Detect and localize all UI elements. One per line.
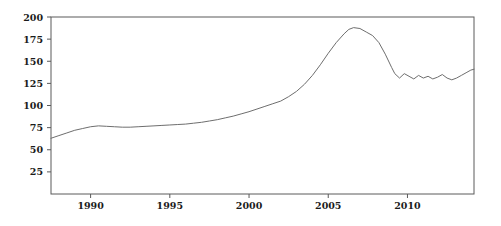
chart-figure: 255075100125150175200 199019952000200520…: [0, 0, 501, 226]
line-chart: 255075100125150175200 199019952000200520…: [0, 0, 501, 226]
plot-background: [51, 17, 474, 194]
y-tick-label: 25: [30, 166, 43, 177]
y-tick-label: 100: [23, 100, 43, 111]
x-tick-label: 2010: [394, 200, 421, 211]
x-tick-label: 2005: [315, 200, 341, 211]
y-tick-label: 150: [23, 56, 43, 67]
x-tick-label: 2000: [236, 200, 263, 211]
y-axis-ticks: 255075100125150175200: [23, 12, 51, 178]
y-tick-label: 50: [30, 144, 44, 155]
x-axis-ticks: 19901995200020052010: [77, 194, 421, 211]
y-tick-label: 175: [23, 34, 43, 45]
y-tick-label: 200: [23, 12, 43, 23]
x-tick-label: 1995: [157, 200, 183, 211]
x-tick-label: 1990: [77, 200, 104, 211]
y-tick-label: 75: [30, 122, 43, 133]
y-tick-label: 125: [23, 78, 43, 89]
